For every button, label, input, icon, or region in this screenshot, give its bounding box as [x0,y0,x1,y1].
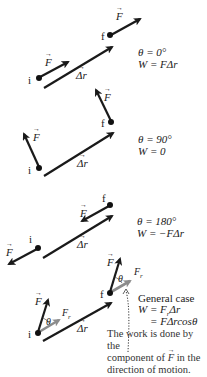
initial-label: i [29,233,32,245]
general-work-cos-formula: = FΔrcosθ [150,315,197,327]
displacement-label: Δr [77,322,88,334]
note-line-2: component of F in the [107,352,207,364]
force-label-initial: F [6,246,13,258]
work-formula-label: W = 0 [138,145,166,157]
component-label-initial: Fr [62,307,71,323]
final-point [107,290,113,296]
pointer-arrowhead-icon [123,289,129,294]
force-label-initial: F [35,295,42,307]
displacement-label: Δr [77,157,88,169]
initial-point [35,245,41,251]
theta-label-final: θ [118,273,123,285]
theta-label-initial: θ [46,316,51,328]
theta-value-label: θ = 0° [138,46,166,58]
initial-point [36,75,42,81]
final-point [107,32,113,38]
displacement-label: Δr [76,69,87,81]
initial-label: i [28,328,31,340]
force-label-final: F [107,256,114,268]
final-label: f [101,30,105,42]
work-formula-label: W = −FΔr [137,227,184,239]
initial-label: i [28,164,31,176]
theta-value-label: θ = 90° [138,133,172,145]
final-label: f [102,192,106,204]
work-angle-diagram: F F i f Δr θ = 0° W = FΔr F F i f Δr θ =… [0,0,207,377]
initial-point [35,330,41,336]
displacement-label: Δr [77,238,88,250]
final-label: f [101,117,105,129]
initial-label: i [28,74,31,86]
work-formula-label: W = FΔr [138,58,178,70]
explanation-note: The work is done by the component of F i… [107,328,207,376]
force-arrow-initial [9,249,37,264]
component-label-final: Fr [134,266,143,282]
theta-value-label: θ = 180° [137,215,176,227]
panel-theta-180 [9,202,113,264]
force-label-final: F [80,207,87,219]
force-label-initial: F [33,131,40,143]
force-label-initial: F [45,56,52,68]
force-label-final: F [116,10,123,22]
note-line-3: direction of motion. [107,364,207,376]
note-line-1: The work is done by the [107,328,207,352]
force-label-final: F [104,91,111,103]
final-point [108,119,114,125]
final-label: f [100,288,104,300]
final-point [107,202,113,208]
initial-point [36,165,42,171]
